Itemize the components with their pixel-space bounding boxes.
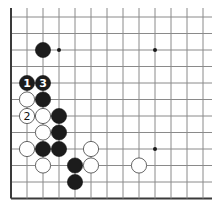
white-stone	[131, 158, 146, 173]
black-stone-icon	[51, 108, 66, 123]
white-stone	[35, 158, 50, 173]
white-stone	[83, 158, 98, 173]
white-stone	[19, 141, 34, 156]
black-stone-icon	[67, 174, 82, 189]
white-stone-icon	[35, 158, 50, 173]
black-stone-icon	[51, 141, 66, 156]
white-stone-icon	[131, 158, 146, 173]
black-stone-icon	[67, 158, 82, 173]
black-stone	[35, 42, 50, 57]
white-stone-icon	[83, 158, 98, 173]
white-stone	[35, 108, 50, 123]
white-stone	[83, 141, 98, 156]
black-stone	[51, 125, 66, 140]
star-point-icon	[57, 48, 61, 52]
black-stone	[51, 108, 66, 123]
move-number-label: 2	[24, 110, 31, 123]
go-board: 132	[0, 0, 224, 210]
black-stone	[35, 92, 50, 107]
white-stone-icon	[35, 125, 50, 140]
white-stone: 2	[19, 108, 34, 123]
white-stone	[19, 92, 34, 107]
black-stone	[67, 158, 82, 173]
black-stone	[51, 141, 66, 156]
white-stone-icon	[19, 92, 34, 107]
white-stone	[35, 125, 50, 140]
black-stone-icon	[35, 141, 50, 156]
star-point-icon	[153, 48, 157, 52]
black-stone: 1	[19, 75, 34, 90]
black-stone-icon	[35, 92, 50, 107]
star-point-icon	[153, 147, 157, 151]
black-stone: 3	[35, 75, 50, 90]
black-stone-icon	[35, 42, 50, 57]
black-stone	[67, 174, 82, 189]
black-stone	[35, 141, 50, 156]
white-stone-icon	[19, 141, 34, 156]
white-stone-icon	[35, 108, 50, 123]
move-number-label: 3	[39, 77, 47, 90]
move-number-label: 1	[23, 77, 31, 90]
white-stone-icon	[83, 141, 98, 156]
black-stone-icon	[51, 125, 66, 140]
